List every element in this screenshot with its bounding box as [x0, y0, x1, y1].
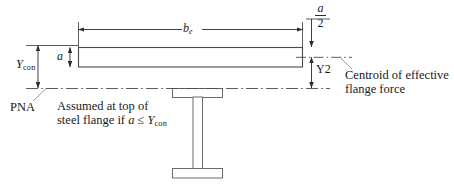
- pna-note: Assumed at top of steel flange if a ≤ Yc…: [57, 99, 167, 129]
- pna-note-prefix: steel flange if: [57, 113, 128, 127]
- label-y2: Y2: [316, 63, 331, 76]
- steel-web: [193, 97, 203, 169]
- label-ycon: Ycon: [16, 57, 35, 73]
- pna-note-leq-icon: ≤: [134, 113, 147, 127]
- label-ycon-base: Y: [16, 57, 23, 71]
- pna-note-line-1: Assumed at top of: [57, 99, 167, 113]
- label-pna: PNA: [10, 100, 35, 114]
- label-a-over-2-denominator: 2: [315, 17, 326, 29]
- centroid-callout-line-1: Centroid of effective: [345, 68, 449, 82]
- label-be-subscript: e: [189, 27, 193, 36]
- label-a: a: [57, 50, 63, 63]
- label-a-over-2-numerator: a: [315, 2, 326, 14]
- steel-top-flange: [173, 89, 223, 98]
- centroid-callout-line-2: flange force: [345, 82, 449, 96]
- label-a-over-2: a 2: [315, 2, 326, 29]
- steel-bottom-flange: [173, 169, 223, 179]
- pna-note-line-2: steel flange if a ≤ Ycon: [57, 113, 167, 129]
- label-ycon-subscript: con: [23, 63, 36, 72]
- centroid-callout: Centroid of effective flange force: [345, 68, 449, 96]
- engineering-diagram: be a a 2 Ycon Y2 PNA Assumed at top of s…: [0, 0, 454, 187]
- pna-note-symbol-y-subscript: con: [154, 119, 167, 128]
- steel-i-beam: [173, 89, 223, 179]
- concrete-slab-rectangle: [79, 48, 303, 68]
- label-be: be: [183, 22, 193, 37]
